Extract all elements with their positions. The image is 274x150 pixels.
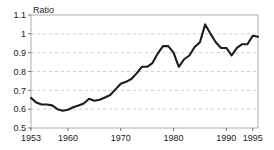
x-axis-ticks [31,128,253,131]
x-tick-label: 1953 [21,133,41,143]
ratio-line-chart: 0.50.60.70.80.911.1 19531960197019801990… [0,0,274,150]
x-tick-label: 1970 [111,133,131,143]
y-tick-label: 0.8 [13,67,26,77]
x-tick-label: 1980 [164,133,184,143]
y-axis-ticks [28,15,31,128]
y-axis-unit-label: Ratio [33,5,54,15]
x-axis-tick-labels: 195319601970198019901995 [21,133,263,143]
y-tick-label: 0.5 [13,123,26,133]
x-tick-label: 1990 [216,133,236,143]
data-series-ratio [31,24,258,110]
y-tick-label: 1.1 [13,10,26,20]
x-tick-label: 1995 [243,133,263,143]
series-line-ratio [31,24,258,110]
y-axis-tick-labels: 0.50.60.70.80.911.1 [13,10,26,133]
y-tick-label: 0.9 [13,48,26,58]
y-tick-label: 1 [21,29,26,39]
gridlines [31,34,258,109]
y-tick-label: 0.6 [13,104,26,114]
y-tick-label: 0.7 [13,86,26,96]
chart-container: 0.50.60.70.80.911.1 19531960197019801990… [0,0,274,150]
x-tick-label: 1960 [58,133,78,143]
